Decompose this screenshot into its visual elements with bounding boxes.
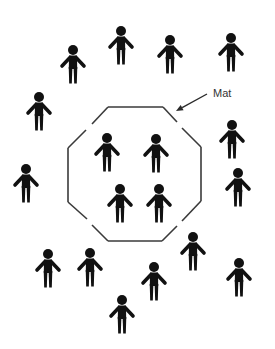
child-figure-icon bbox=[15, 164, 37, 203]
child-figure-icon bbox=[227, 168, 249, 207]
child-on-mat-figure-icon bbox=[96, 133, 118, 172]
mat-edge bbox=[182, 201, 201, 221]
child-figure-icon bbox=[220, 33, 242, 72]
children-outside-mat bbox=[15, 26, 250, 334]
child-figure-icon bbox=[143, 262, 165, 301]
child-on-mat-figure-icon bbox=[109, 184, 131, 223]
mat-callout: Mat bbox=[176, 87, 231, 111]
child-figure-icon bbox=[111, 295, 133, 334]
child-figure-icon bbox=[228, 258, 250, 297]
mat-octagon bbox=[68, 107, 201, 241]
callout-arrow-line bbox=[182, 94, 207, 108]
mat-edge bbox=[182, 128, 201, 147]
child-figure-icon bbox=[62, 45, 84, 84]
mat-edge bbox=[68, 202, 87, 219]
mat-edge bbox=[92, 107, 108, 124]
mat-edge bbox=[92, 225, 108, 241]
child-figure-icon bbox=[37, 249, 59, 288]
child-figure-icon bbox=[110, 26, 132, 65]
mat-edge bbox=[163, 107, 177, 122]
child-figure-icon bbox=[79, 248, 101, 287]
child-on-mat-figure-icon bbox=[148, 184, 170, 223]
child-on-mat-figure-icon bbox=[145, 134, 167, 173]
child-figure-icon bbox=[28, 92, 50, 131]
mat-diagram: Mat bbox=[0, 0, 275, 349]
child-figure-icon bbox=[159, 35, 181, 74]
children-on-mat bbox=[96, 133, 170, 223]
child-figure-icon bbox=[221, 120, 243, 159]
mat-edge bbox=[68, 130, 86, 148]
mat-label: Mat bbox=[213, 87, 231, 99]
mat-edge bbox=[162, 226, 177, 241]
child-figure-icon bbox=[182, 232, 204, 271]
